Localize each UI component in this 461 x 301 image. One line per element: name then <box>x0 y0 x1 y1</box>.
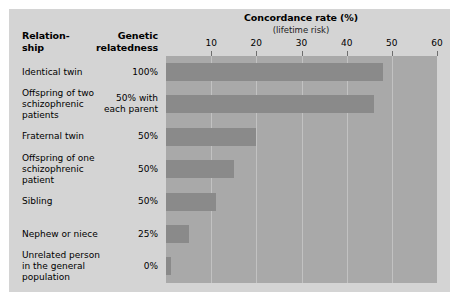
row-genetic-relatedness-5: 25% <box>92 229 158 240</box>
gridline-20 <box>256 56 257 283</box>
figure: Concordance rate (%) (lifetime risk) Rel… <box>0 0 461 301</box>
bar-2 <box>166 128 256 146</box>
row-genetic-relatedness-1-line-0: 50% with <box>92 93 158 104</box>
row-label-6-line-0: Unrelated person <box>22 250 114 261</box>
row-genetic-relatedness-3-line-0: 50% <box>92 164 158 175</box>
column-header-genetic-relatedness: Geneticrelatedness <box>92 30 158 53</box>
plot-area <box>166 56 437 283</box>
chart-subtitle: (lifetime risk) <box>176 25 426 35</box>
row-genetic-relatedness-4: 50% <box>92 196 158 207</box>
bar-5 <box>166 225 189 243</box>
row-label-6-line-2: population <box>22 272 114 283</box>
gridline-40 <box>347 56 348 283</box>
row-genetic-relatedness-1: 50% witheach parent <box>92 93 158 115</box>
bar-1 <box>166 95 374 113</box>
row-genetic-relatedness-2: 50% <box>92 131 158 142</box>
bar-4 <box>166 193 216 211</box>
row-genetic-relatedness-6: 0% <box>92 261 158 272</box>
column-header-genetic-line-0: Genetic <box>92 30 158 42</box>
bar-0 <box>166 63 383 81</box>
bar-6 <box>166 257 171 275</box>
row-genetic-relatedness-3: 50% <box>92 164 158 175</box>
row-genetic-relatedness-0-line-0: 100% <box>92 67 158 78</box>
row-label-3-line-2: patient <box>22 175 114 186</box>
bar-3 <box>166 160 234 178</box>
row-genetic-relatedness-6-line-0: 0% <box>92 261 158 272</box>
row-genetic-relatedness-5-line-0: 25% <box>92 229 158 240</box>
row-genetic-relatedness-4-line-0: 50% <box>92 196 158 207</box>
row-label-3-line-0: Offspring of one <box>22 153 114 164</box>
column-header-genetic-line-1: relatedness <box>92 42 158 54</box>
gridline-50 <box>392 56 393 283</box>
gridline-30 <box>302 56 303 283</box>
row-genetic-relatedness-0: 100% <box>92 67 158 78</box>
row-genetic-relatedness-2-line-0: 50% <box>92 131 158 142</box>
row-genetic-relatedness-1-line-1: each parent <box>92 104 158 115</box>
chart-title: Concordance rate (%) <box>176 12 426 23</box>
